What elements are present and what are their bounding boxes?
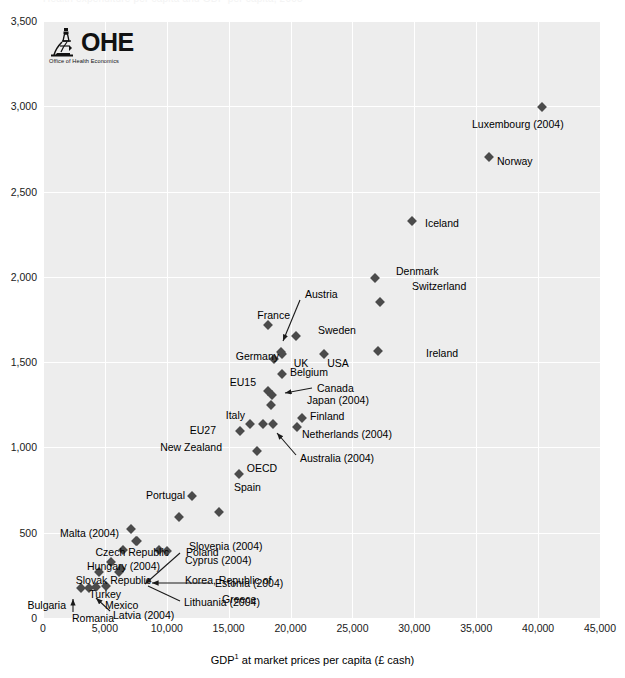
gridline-horizontal <box>43 21 600 22</box>
data-point-label: Luxembourg (2004) <box>472 119 564 130</box>
data-point-label: Iceland <box>425 218 459 229</box>
data-point-label: Slovak Republic <box>76 575 151 586</box>
x-axis-tick-label: 5,000 <box>92 622 118 634</box>
data-point-label: Canada <box>317 383 354 394</box>
x-axis-tick-label: 25,000 <box>336 622 368 634</box>
data-point-label: Japan (2004) <box>307 395 369 406</box>
data-point-label: Italy <box>226 410 245 421</box>
data-point-label: USA <box>327 358 349 369</box>
gridline-vertical <box>43 21 44 618</box>
gridline-vertical <box>229 21 230 618</box>
data-point-label: Denmark <box>396 266 439 277</box>
gridline-vertical <box>167 21 168 618</box>
y-axis-tick-label: 3,500 <box>0 15 37 27</box>
gridline-vertical <box>291 21 292 618</box>
gridline-vertical <box>414 21 415 618</box>
ohe-logo-text: OHE <box>81 28 134 57</box>
data-point-label: Australia (2004) <box>300 453 374 464</box>
data-point-label: Czech Republic <box>95 547 169 558</box>
y-axis-tick-label: 0 <box>0 612 37 624</box>
data-point-label: Austria <box>305 289 338 300</box>
data-point-label: Estonia (2004) <box>215 578 283 589</box>
x-axis-tick-label: 20,000 <box>274 622 306 634</box>
data-point-label: Switzerland <box>412 281 466 292</box>
gridline-vertical <box>352 21 353 618</box>
y-axis-tick-label: 2,500 <box>0 186 37 198</box>
y-axis-tick-label: 3,000 <box>0 100 37 112</box>
data-point-label: EU15 <box>230 377 256 388</box>
x-axis-tick-label: 35,000 <box>460 622 492 634</box>
gridline-horizontal <box>43 362 600 363</box>
chart-title: Health expenditure per capita and GDP pe… <box>43 0 583 4</box>
gridline-vertical <box>538 21 539 618</box>
data-point-label: Bulgaria <box>27 600 66 611</box>
data-point-label: Netherlands (2004) <box>302 429 392 440</box>
y-axis-tick-label: 500 <box>0 527 37 539</box>
gridline-vertical <box>600 21 601 618</box>
scatter-chart: Health expenditure per capita and GDP pe… <box>0 0 625 678</box>
gridline-horizontal <box>43 277 600 278</box>
data-point-label: Malta (2004) <box>60 528 119 539</box>
data-point-label: France <box>257 310 290 321</box>
data-point-label: EU27 <box>190 425 216 436</box>
data-point-label: Latvia (2004) <box>113 610 174 621</box>
data-point-label: New Zealand <box>160 442 222 453</box>
y-axis-tick-label: 1,500 <box>0 356 37 368</box>
data-point-label: Finland <box>310 411 344 422</box>
gridline-horizontal <box>43 447 600 448</box>
y-axis-tick-label: 1,000 <box>0 441 37 453</box>
gridline-horizontal <box>43 106 600 107</box>
x-axis-tick-label: 45,000 <box>584 622 616 634</box>
data-point-label: Romania <box>72 613 114 624</box>
data-point-label: Spain <box>234 482 261 493</box>
data-point-label: Sweden <box>318 325 356 336</box>
data-point-label: Germany <box>236 351 279 362</box>
x-axis-tick-label: 0 <box>40 622 46 634</box>
x-axis-tick-label: 30,000 <box>398 622 430 634</box>
microscope-icon <box>47 26 83 60</box>
gridline-horizontal <box>43 533 600 534</box>
gridline-horizontal <box>43 192 600 193</box>
data-point-label: Belgium <box>290 367 328 378</box>
data-point-label: Lithuania (2004) <box>184 597 260 608</box>
data-point-label: Portugal <box>146 490 185 501</box>
data-point-label: Ireland <box>426 348 458 359</box>
y-axis-tick-label: 2,000 <box>0 271 37 283</box>
x-axis-tick-label: 15,000 <box>213 622 245 634</box>
data-point-label: Norway <box>497 156 533 167</box>
gridline-vertical <box>476 21 477 618</box>
x-axis-label: GDP1 at market prices per capita (£ cash… <box>0 652 625 666</box>
data-point-label: OECD <box>247 463 277 474</box>
data-point-label: Hungary (2004) <box>87 561 160 572</box>
ohe-logo-subtitle: Office of Health Economics <box>49 58 119 64</box>
ohe-logo: OHE Office of Health Economics <box>47 26 139 68</box>
x-axis-tick-label: 10,000 <box>151 622 183 634</box>
x-axis-tick-label: 40,000 <box>522 622 554 634</box>
data-point-label: Cyprus (2004) <box>185 555 252 566</box>
